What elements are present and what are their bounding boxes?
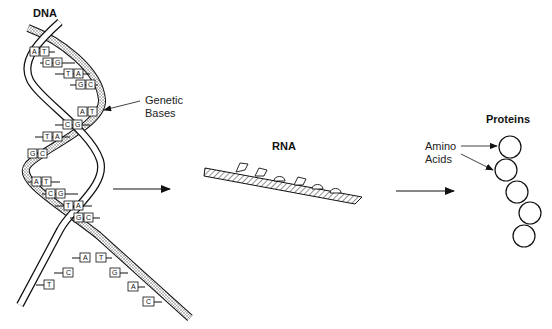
dna-helix: A T C G T A G C A T C [20, 22, 190, 318]
svg-text:A: A [80, 108, 85, 115]
svg-text:T: T [66, 202, 71, 209]
base-a: A [32, 48, 37, 55]
svg-text:A: A [131, 283, 136, 290]
svg-text:T: T [90, 108, 95, 115]
rna-strand [204, 163, 362, 204]
rna-title: RNA [272, 140, 296, 152]
svg-text:T: T [45, 133, 50, 140]
base-t: T [42, 48, 47, 55]
amino-acids-label: Amino Acids [425, 140, 456, 166]
svg-text:T: T [47, 281, 52, 288]
amino-acid-circle [513, 225, 535, 247]
svg-text:C: C [65, 121, 70, 128]
svg-text:A: A [55, 133, 60, 140]
svg-text:G: G [76, 214, 81, 221]
svg-text:G: G [55, 59, 60, 66]
svg-text:C: C [48, 190, 53, 197]
svg-text:A: A [34, 178, 39, 185]
svg-text:G: G [58, 190, 63, 197]
amino-acid-circle [506, 181, 528, 203]
svg-text:C: C [86, 214, 91, 221]
svg-text:G: G [30, 150, 35, 157]
svg-text:G: G [78, 81, 83, 88]
svg-text:T: T [99, 254, 104, 261]
amino-acid-circle [495, 159, 517, 181]
dna-to-protein-diagram: A T C G T A G C A T C [0, 0, 552, 329]
amino-acid-circle [519, 202, 541, 224]
svg-text:G: G [112, 269, 117, 276]
svg-text:G: G [75, 121, 80, 128]
svg-text:T: T [66, 70, 71, 77]
proteins-title: Proteins [486, 113, 530, 125]
genetic-bases-pointer [104, 101, 140, 110]
amino-acid-pointer-2 [461, 154, 493, 170]
protein-chain [495, 136, 541, 247]
svg-text:A: A [76, 202, 81, 209]
svg-text:C: C [88, 81, 93, 88]
dna-title: DNA [33, 7, 57, 19]
svg-text:A: A [76, 70, 81, 77]
svg-text:C: C [45, 59, 50, 66]
svg-text:C: C [146, 298, 151, 305]
amino-acid-circle [499, 136, 521, 158]
genetic-bases-label: Genetic Bases [145, 94, 183, 120]
svg-text:C: C [66, 269, 71, 276]
svg-text:T: T [44, 178, 49, 185]
svg-text:C: C [40, 150, 45, 157]
svg-text:A: A [83, 254, 88, 261]
